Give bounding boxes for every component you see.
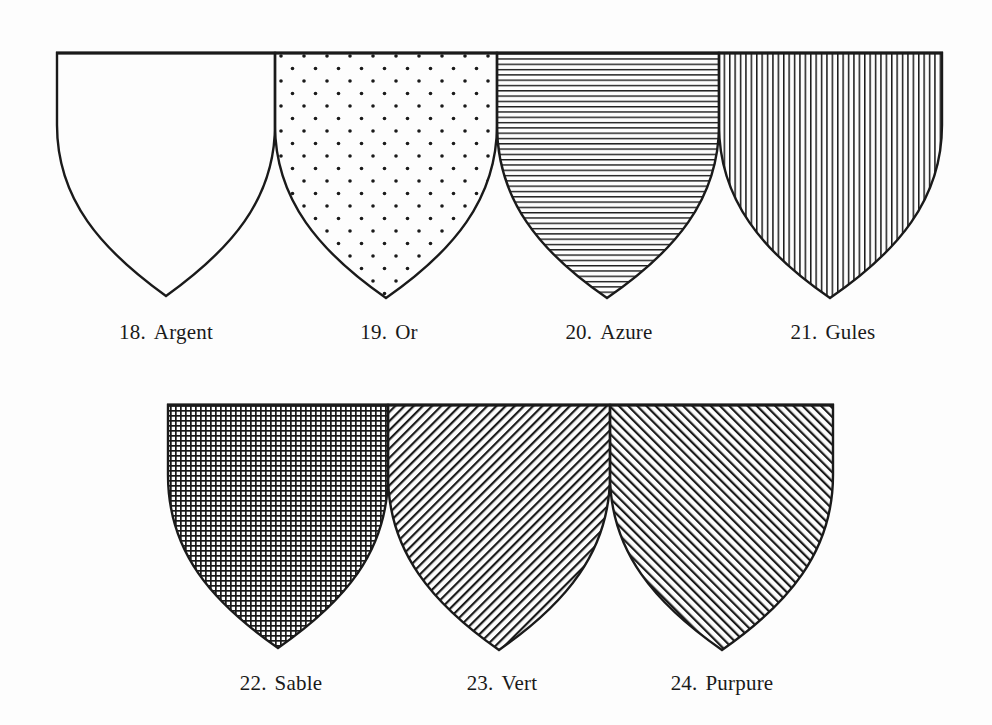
caption-sable: 22.Sable (240, 671, 323, 696)
caption-number: 23. (467, 671, 494, 695)
caption-name: Azure (600, 320, 652, 344)
shields-drawing (0, 0, 992, 725)
caption-name: Argent (154, 320, 213, 344)
caption-number: 18. (119, 320, 146, 344)
caption-number: 24. (671, 671, 698, 695)
caption-name: Or (395, 320, 418, 344)
shield-sable (168, 405, 388, 648)
caption-azure: 20.Azure (565, 320, 652, 345)
shield-azure (497, 53, 719, 298)
caption-or: 19.Or (360, 320, 417, 345)
caption-name: Sable (275, 671, 323, 695)
caption-vert: 23.Vert (467, 671, 538, 696)
caption-gules: 21.Gules (791, 320, 876, 345)
caption-name: Gules (825, 320, 875, 344)
caption-number: 19. (360, 320, 387, 344)
caption-number: 20. (565, 320, 592, 344)
shield-row-2 (167, 405, 834, 650)
caption-number: 21. (791, 320, 818, 344)
shield-purpure (610, 405, 833, 650)
shield-or (275, 53, 497, 298)
shield-gules (719, 53, 942, 298)
shield-row-1 (56, 53, 943, 298)
shield-vert (388, 405, 610, 650)
tincture-plate: 18.Argent 19.Or 20.Azure 21.Gules 22.Sab… (0, 0, 992, 725)
shield-argent (57, 53, 275, 296)
caption-name: Purpure (705, 671, 773, 695)
caption-purpure: 24.Purpure (671, 671, 774, 696)
caption-name: Vert (502, 671, 538, 695)
caption-argent: 18.Argent (119, 320, 213, 345)
caption-number: 22. (240, 671, 267, 695)
